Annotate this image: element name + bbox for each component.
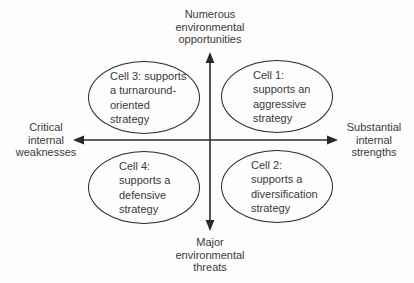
cell-4-ellipse: Cell 4: supports a defensive strategy [88,151,200,224]
cell-2-label: Cell 2: supports a diversification strat… [222,158,318,216]
cell-4-label: Cell 4: supports a defensive strategy [89,159,170,217]
arrow-down-icon [206,220,215,231]
axis-label-weaknesses: Critical internal weaknesses [16,121,77,159]
cell-1-ellipse: Cell 1: supports an aggressive strategy [221,60,333,133]
arrow-up-icon [206,52,215,63]
axis-label-opportunities: Numerous environmental opportunities [175,8,244,46]
cell-3-ellipse: Cell 3: supports a turnaround- oriented … [88,61,200,134]
swot-matrix-diagram: Numerous environmental opportunities Maj… [0,0,414,283]
axis-label-threats: Major environmental threats [175,236,244,274]
axis-label-strengths: Substantial internal strengths [347,121,401,159]
cell-3-label: Cell 3: supports a turnaround- oriented … [89,69,186,127]
horizontal-axis [73,136,338,145]
arrow-right-icon [327,136,338,145]
cell-2-ellipse: Cell 2: supports a diversification strat… [221,150,333,223]
vertical-axis [206,52,215,231]
cell-1-label: Cell 1: supports an aggressive strategy [222,68,310,126]
